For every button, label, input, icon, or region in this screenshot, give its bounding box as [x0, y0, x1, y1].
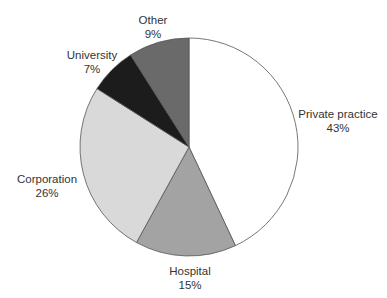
- label-pct: 26%: [14, 186, 80, 200]
- label-other: Other 9%: [133, 13, 173, 41]
- label-pct: 9%: [133, 27, 173, 41]
- label-pct: 43%: [298, 121, 378, 135]
- label-name: Hospital: [160, 264, 220, 278]
- label-hospital: Hospital 15%: [160, 264, 220, 292]
- label-name: Other: [133, 13, 173, 27]
- label-university: University 7%: [62, 48, 122, 76]
- label-corporation: Corporation 26%: [14, 172, 80, 200]
- label-name: Corporation: [14, 172, 80, 186]
- label-pct: 15%: [160, 278, 220, 292]
- label-private-practice: Private practice 43%: [298, 107, 378, 135]
- pie-chart: [0, 0, 387, 298]
- label-name: Private practice: [298, 107, 378, 121]
- label-pct: 7%: [62, 62, 122, 76]
- label-name: University: [62, 48, 122, 62]
